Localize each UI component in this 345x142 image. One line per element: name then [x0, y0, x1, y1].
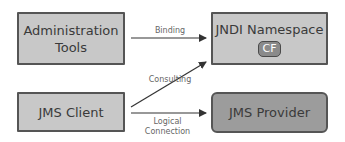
administration-tools-node: Administration Tools	[17, 12, 125, 65]
node-label: Tools	[55, 39, 87, 56]
node-label: JMS Client	[38, 105, 103, 120]
binding-label: Binding	[145, 26, 195, 36]
consulting-label: Consulting	[140, 75, 200, 85]
label-line: Connection	[135, 127, 200, 137]
node-label: JMS Provider	[229, 105, 310, 120]
node-label: Administration	[23, 22, 118, 39]
connection-factory-badge: CF	[258, 41, 280, 57]
logical-connection-label: Logical Connection	[135, 117, 200, 137]
node-label: JNDI Namespace	[215, 21, 323, 38]
jndi-namespace-node: JNDI Namespace CF	[211, 12, 328, 65]
label-line: Logical	[135, 117, 200, 127]
jms-client-node: JMS Client	[17, 92, 125, 132]
jms-provider-node: JMS Provider	[211, 92, 328, 133]
